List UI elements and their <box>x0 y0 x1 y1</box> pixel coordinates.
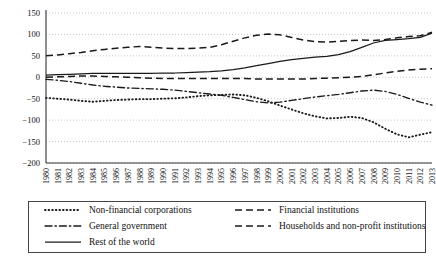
legend-item-label: Rest of the world <box>89 237 155 247</box>
y-axis-tick-label: −50 <box>27 94 40 104</box>
legend-item[interactable]: Households and non-profit institutions <box>233 221 425 231</box>
legend-line-sample <box>233 221 273 231</box>
line-chart-plot: 150100500−50−100−150−2001980198119821983… <box>0 0 436 200</box>
y-axis-tick-label: −200 <box>22 158 40 168</box>
x-axis-tick-label: 1996 <box>229 168 238 184</box>
legend-item-label: Households and non-profit institutions <box>279 221 425 231</box>
x-axis-tick-label: 1988 <box>136 168 145 184</box>
legend-line-sample <box>43 221 83 231</box>
legend-item[interactable]: Rest of the world <box>43 237 155 247</box>
x-axis-tick-label: 2004 <box>323 168 332 184</box>
legend-item[interactable]: General government <box>43 221 167 231</box>
series-line <box>46 33 432 75</box>
x-axis-tick-label: 1982 <box>65 168 74 184</box>
x-axis-tick-label: 1997 <box>241 168 250 184</box>
x-axis-tick-label: 2011 <box>405 168 414 184</box>
series-line <box>46 94 432 137</box>
x-axis-tick-label: 1998 <box>253 168 262 184</box>
x-axis-tick-label: 1991 <box>171 168 180 184</box>
x-axis-tick-label: 1999 <box>264 168 273 184</box>
x-axis-tick-label: 2013 <box>428 168 436 184</box>
x-axis-tick-label: 1981 <box>54 168 63 184</box>
legend-item[interactable]: Financial institutions <box>233 205 359 215</box>
legend-line-sample <box>233 205 273 215</box>
y-axis-tick-label: −150 <box>22 137 40 147</box>
x-axis-tick-label: 2006 <box>346 168 355 184</box>
x-axis-tick-label: 1994 <box>206 168 215 184</box>
x-axis-tick-label: 1993 <box>194 168 203 184</box>
x-axis-tick-label: 1983 <box>77 168 86 184</box>
legend-line-sample <box>43 237 83 247</box>
x-axis-tick-label: 2012 <box>416 168 425 184</box>
x-axis-tick-label: 2010 <box>393 168 402 184</box>
x-axis-tick-label: 2005 <box>334 168 343 184</box>
x-axis-tick-label: 2001 <box>288 168 297 184</box>
series-line <box>46 32 432 56</box>
x-axis-tick-label: 2000 <box>276 168 285 184</box>
x-axis-tick-label: 2002 <box>299 168 308 184</box>
y-axis-tick-label: 150 <box>27 8 40 18</box>
x-axis-tick-label: 1985 <box>100 168 109 184</box>
x-axis-tick-label: 1986 <box>112 168 121 184</box>
x-axis-tick-label: 1980 <box>42 168 51 184</box>
x-axis-tick-label: 1984 <box>89 168 98 184</box>
x-axis-tick-label: 1992 <box>182 168 191 184</box>
legend-item-label: General government <box>89 221 167 231</box>
x-axis-tick-label: 1987 <box>124 168 133 184</box>
x-axis-tick-label: 2008 <box>370 168 379 184</box>
x-axis-tick-label: 2009 <box>381 168 390 184</box>
x-axis-tick-label: 2007 <box>358 168 367 184</box>
y-axis-tick-label: 0 <box>36 72 40 82</box>
x-axis-tick-label: 2003 <box>311 168 320 184</box>
x-axis-tick-label: 1990 <box>159 168 168 184</box>
chart-container: 150100500−50−100−150−2001980198119821983… <box>0 0 436 262</box>
legend-item-label: Non-financial corporations <box>89 205 192 215</box>
y-axis-tick-label: −100 <box>22 115 40 125</box>
chart-legend: Non-financial corporationsFinancial inst… <box>28 201 426 253</box>
legend-item[interactable]: Non-financial corporations <box>43 205 192 215</box>
legend-line-sample <box>43 205 83 215</box>
y-axis-tick-label: 50 <box>32 51 41 61</box>
x-axis-tick-label: 1995 <box>217 168 226 184</box>
y-axis-tick-label: 100 <box>27 29 40 39</box>
legend-item-label: Financial institutions <box>279 205 359 215</box>
x-axis-tick-label: 1989 <box>147 168 156 184</box>
